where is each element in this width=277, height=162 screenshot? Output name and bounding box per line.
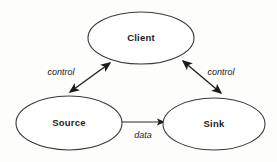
edge-label-control-right: control — [207, 67, 235, 77]
diagram-svg: control control data Client Source Sink — [0, 0, 277, 162]
node-sink[interactable]: Sink — [163, 98, 265, 150]
diagram-canvas: control control data Client Source Sink — [0, 0, 277, 162]
edge-label-data: data — [134, 130, 152, 140]
node-source[interactable]: Source — [16, 96, 122, 150]
edge-client-sink: control — [183, 61, 236, 93]
node-sink-label: Sink — [204, 118, 225, 129]
node-client-label: Client — [127, 32, 155, 43]
edge-source-client-arrow — [70, 63, 110, 92]
edge-label-control-left: control — [47, 67, 75, 77]
node-source-label: Source — [52, 117, 85, 128]
edge-source-client: control — [47, 63, 110, 92]
edge-source-sink: data — [121, 122, 164, 140]
node-client[interactable]: Client — [88, 12, 194, 64]
